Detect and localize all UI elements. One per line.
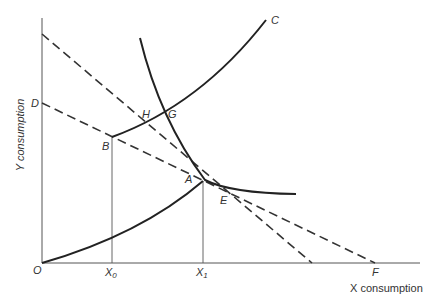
label-F: F xyxy=(372,266,380,278)
curve-OA xyxy=(42,181,203,263)
label-D: D xyxy=(31,97,39,109)
origin-label: O xyxy=(33,264,42,276)
label-B: B xyxy=(102,140,109,152)
budget-line-upper xyxy=(42,34,312,263)
indifference-curve xyxy=(140,38,296,194)
label-E: E xyxy=(220,194,228,206)
label-A: A xyxy=(184,173,192,185)
tick-label-x0: X0 xyxy=(104,266,117,280)
budget-line-DF xyxy=(42,103,375,263)
consumption-diagram: Y consumption X consumption O D B H G C … xyxy=(0,0,437,301)
label-C: C xyxy=(271,14,279,26)
curve-BC xyxy=(112,20,266,137)
label-H: H xyxy=(142,108,150,120)
tick-label-x1: X1 xyxy=(195,266,208,280)
label-G: G xyxy=(168,108,177,120)
y-axis-label: Y consumption xyxy=(14,99,26,172)
x-axis-label: X consumption xyxy=(350,282,423,294)
